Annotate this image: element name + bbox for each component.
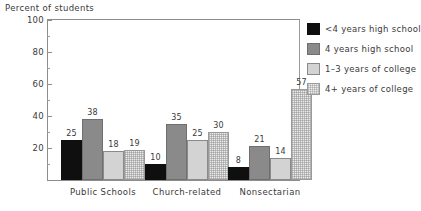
bar[interactable] [145, 164, 166, 180]
bar-item[interactable]: 35 [166, 20, 187, 180]
y-tick-label: 80 [4, 47, 44, 57]
bar-group: 10352530 [145, 20, 229, 180]
bar-group: 8211457 [228, 20, 312, 180]
bar-item[interactable]: 18 [103, 20, 124, 180]
legend-label: 4+ years of college [325, 84, 413, 94]
category-label: Public Schools [70, 187, 136, 197]
bar-item[interactable]: 19 [124, 20, 145, 180]
bar-value-label: 25 [66, 129, 77, 138]
legend-item[interactable]: 1–3 years of college [307, 60, 417, 78]
bar-value-label: 19 [129, 139, 140, 148]
bar[interactable] [61, 140, 82, 180]
bar-item[interactable]: 38 [82, 20, 103, 180]
bar-item[interactable]: 25 [61, 20, 82, 180]
bar-item[interactable]: 30 [208, 20, 229, 180]
bar[interactable] [187, 140, 208, 180]
legend-label: <4 years high school [325, 24, 421, 34]
y-axis-title: Percent of students [5, 3, 94, 13]
bar-value-label: 10 [150, 153, 161, 162]
bar-value-label: 35 [171, 113, 182, 122]
bar[interactable] [166, 124, 187, 180]
bars-area: 25381819103525308211457 [48, 20, 299, 180]
bar-value-label: 38 [87, 108, 98, 117]
legend-label: 4 years high school [325, 44, 413, 54]
legend: <4 years high school4 years high school1… [307, 20, 417, 100]
bar-item[interactable]: 25 [187, 20, 208, 180]
bar-item[interactable]: 8 [228, 20, 249, 180]
legend-item[interactable]: 4+ years of college [307, 80, 417, 98]
bar-value-label: 57 [296, 78, 307, 87]
y-tick-label: 60 [4, 79, 44, 89]
bar-value-label: 25 [192, 129, 203, 138]
bar[interactable] [208, 132, 229, 180]
legend-swatch-icon [307, 23, 320, 35]
bar-value-label: 18 [108, 140, 119, 149]
legend-label: 1–3 years of college [325, 64, 416, 74]
legend-swatch-icon [307, 83, 320, 95]
bar[interactable] [103, 151, 124, 180]
legend-item[interactable]: 4 years high school [307, 40, 417, 58]
bar[interactable] [82, 119, 103, 180]
bar-value-label: 30 [213, 121, 224, 130]
bar-value-label: 8 [236, 156, 241, 165]
legend-item[interactable]: <4 years high school [307, 20, 417, 38]
legend-swatch-icon [307, 43, 320, 55]
bar[interactable] [228, 167, 249, 180]
bar[interactable] [270, 158, 291, 180]
category-label: Nonsectarian [239, 187, 300, 197]
bar-item[interactable]: 14 [270, 20, 291, 180]
bar-value-label: 21 [254, 135, 265, 144]
legend-swatch-icon [307, 63, 320, 75]
y-tick-label: 40 [4, 111, 44, 121]
bar[interactable] [124, 150, 145, 180]
category-label: Church-related [153, 187, 222, 197]
y-tick-label: 100 [4, 15, 44, 25]
bar-value-label: 14 [275, 147, 286, 156]
y-tick-label: 20 [4, 143, 44, 153]
bar-group: 25381819 [61, 20, 145, 180]
bar-item[interactable]: 10 [145, 20, 166, 180]
bar[interactable] [291, 89, 312, 180]
bar[interactable] [249, 146, 270, 180]
bar-item[interactable]: 21 [249, 20, 270, 180]
